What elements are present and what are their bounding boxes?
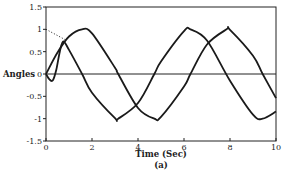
y-tick-label: -0.5 (27, 92, 42, 101)
line-chart: 1.510.50-0.5-1-1.5 0246810 Angles Time (… (0, 0, 284, 180)
x-tick-label: 2 (89, 143, 94, 152)
figure-caption: (a) (154, 160, 168, 170)
y-tick-label: -1 (34, 115, 42, 124)
y-tick-label: 0 (37, 70, 42, 79)
x-axis-label: Time (Sec) (135, 149, 187, 159)
y-tick-label: -1.5 (27, 137, 42, 146)
series-line-3 (46, 29, 67, 40)
y-tick-label: 1.5 (29, 3, 42, 12)
y-tick-label: 0.5 (29, 48, 42, 57)
x-tick-label: 8 (227, 143, 232, 152)
x-tick-label: 0 (43, 143, 48, 152)
y-tick-label: 1 (37, 25, 42, 34)
x-tick-label: 10 (271, 143, 281, 152)
y-axis-label: Angles (2, 69, 35, 79)
